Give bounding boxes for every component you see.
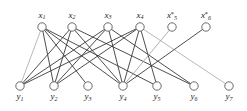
- graph-node-x6[interactable]: [202, 23, 210, 31]
- graph-node-x5[interactable]: [168, 23, 176, 31]
- graph-node-y4[interactable]: [119, 82, 127, 90]
- graph-edge: [144, 29, 226, 83]
- node-label-x5: x*5: [167, 11, 177, 21]
- graph-node-y7[interactable]: [225, 82, 233, 90]
- graph-node-y3[interactable]: [84, 82, 92, 90]
- node-label-y4: y4: [119, 92, 126, 102]
- graph-edge: [45, 29, 119, 83]
- graph-edge: [124, 31, 139, 82]
- edge-layer: [21, 29, 225, 84]
- graph-edge: [111, 29, 190, 83]
- node-label-y5: y5: [153, 92, 160, 102]
- node-label-x6: x*6: [201, 11, 211, 21]
- node-label-y2: y2: [50, 92, 57, 102]
- graph-node-y6[interactable]: [190, 82, 198, 90]
- graph-edge: [23, 30, 69, 83]
- node-label-x4: x4: [136, 11, 143, 21]
- node-label-x2: x2: [68, 11, 75, 21]
- graph-node-y5[interactable]: [153, 82, 161, 90]
- node-label-y6: y6: [190, 92, 197, 102]
- node-label-x1: x1: [38, 11, 45, 21]
- graph-edge: [141, 31, 156, 82]
- graph-edge: [126, 29, 202, 83]
- node-label-x3: x3: [104, 11, 111, 21]
- node-label-y3: y3: [84, 92, 91, 102]
- graph-node-x4[interactable]: [136, 23, 144, 31]
- node-label-y1: y1: [16, 92, 23, 102]
- bipartite-graph-figure: x1x2x3x4x*5x*6y1y2y3y4y5y6y7: [0, 0, 247, 111]
- graph-edge: [57, 29, 136, 83]
- graph-node-x2[interactable]: [68, 23, 76, 31]
- graph-node-x3[interactable]: [104, 23, 112, 31]
- node-label-y7: y7: [225, 92, 232, 102]
- graph-node-y2[interactable]: [50, 82, 58, 90]
- graph-node-x1[interactable]: [38, 23, 46, 31]
- graph-node-y1[interactable]: [16, 82, 24, 90]
